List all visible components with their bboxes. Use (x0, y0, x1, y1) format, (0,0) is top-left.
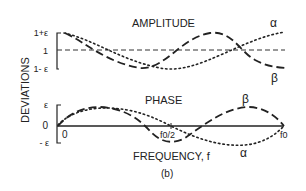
phase-x-tick-zero: 0 (62, 129, 68, 140)
phase-x-tick-f0: f0 (280, 130, 288, 140)
amplitude-tick-lower: 1- ε (33, 64, 48, 74)
y-axis-label: DEVIATIONS (19, 57, 31, 123)
phase-beta-label: β (242, 92, 249, 106)
figure-caption: (b) (161, 168, 173, 179)
amplitude-alpha-curve (64, 32, 285, 69)
amplitude-beta-label: β (271, 71, 278, 85)
amplitude-title: AMPLITUDE (132, 17, 195, 29)
phase-alpha-label: α (240, 146, 247, 160)
phase-tick-lower: - ε (39, 138, 49, 148)
phase-x-tick-half: f0/2 (160, 130, 175, 140)
amplitude-tick-upper: 1+ε (34, 28, 48, 38)
amplitude-panel: AMPLITUDE 1+ε 1 1- ε α β (33, 16, 285, 85)
deviations-figure: DEVIATIONS AMPLITUDE 1+ε 1 1- ε α β PHAS… (0, 0, 306, 191)
x-axis-label: FREQUENCY, f (133, 150, 211, 162)
amplitude-y-axis (57, 33, 61, 69)
amplitude-tick-one: 1 (43, 46, 48, 56)
amplitude-alpha-label: α (270, 16, 277, 30)
phase-tick-upper: ε (44, 100, 48, 110)
phase-title: PHASE (145, 94, 182, 106)
phase-tick-zero: 0 (42, 120, 48, 131)
